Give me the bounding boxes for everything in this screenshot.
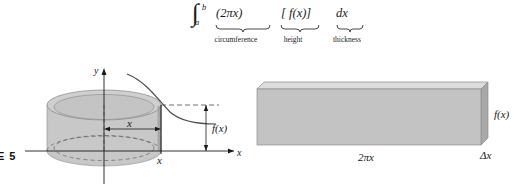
y-axis-label: y [93,65,99,76]
thickness-label: Δx [479,149,491,161]
slab-right-face [481,82,488,145]
figure-page: ∫ b a (2πx) [ f(x)] dx circumference hei… [0,0,521,189]
term-thickness: dx [336,6,348,21]
underbrace-circumference-icon [215,24,271,33]
figure-caption: RE 5 [0,150,16,162]
height-arrow-bottom [204,145,208,151]
shell-method-formula: ∫ b a (2πx) [ f(x)] dx circumference hei… [186,2,376,50]
edge-x-label: x [156,154,162,166]
label-thickness: thickness [328,35,366,44]
label-height: height [274,35,312,44]
slab-top-face [257,82,488,89]
integral-upper-limit: b [202,2,206,12]
width-label: 2πx [358,151,374,163]
radius-label: x [126,117,132,129]
height-arrow-top [204,105,208,111]
unrolled-shell-diagram: 2πx f(x) Δx [255,60,517,179]
term-circumference: (2πx) [216,6,242,21]
x-axis-label: x [236,147,242,158]
x-axis-arrowhead [228,149,234,154]
slab-height-label: f(x) [494,108,510,121]
term-height: [ f(x)] [281,6,311,21]
height-label: f(x) [212,122,228,135]
label-circumference: circumference [204,35,268,44]
underbrace-thickness-icon [336,24,364,33]
cylindrical-shell-diagram: x y x x f(x) [20,60,252,189]
integral-lower-limit: a [195,17,199,27]
y-axis-arrowhead [102,68,107,75]
slab-front-face [257,89,481,145]
underbrace-height-icon [280,24,320,33]
